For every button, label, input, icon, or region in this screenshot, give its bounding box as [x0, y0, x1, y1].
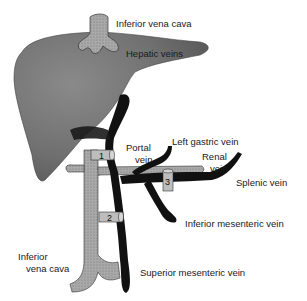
- label-ivc-bottom-line2: vena cava: [26, 263, 69, 274]
- label-renal-vein-line2: vein: [210, 163, 227, 174]
- ivc-cross-branch: [66, 165, 84, 172]
- intrahepatic-portal-branches: [70, 126, 110, 140]
- label-superior-mesenteric-vein: Superior mesenteric vein: [140, 267, 245, 278]
- label-hepatic-veins: Hepatic veins: [126, 48, 183, 59]
- label-renal-vein-line1: Renal: [202, 151, 227, 162]
- shunt-marker-1: 1: [91, 150, 115, 161]
- label-portal-vein-line1: Portal: [126, 142, 151, 153]
- shunt-marker-3: 3: [163, 169, 173, 191]
- svg-text:1: 1: [99, 151, 104, 161]
- label-ivc-bottom-line1: Inferior: [18, 251, 48, 262]
- svg-text:2: 2: [107, 213, 112, 223]
- svg-text:3: 3: [165, 177, 170, 187]
- label-portal-vein-line2: vein: [135, 154, 152, 165]
- shunt-marker-2: 2: [99, 212, 124, 223]
- label-ivc-top: Inferior vena cava: [116, 18, 192, 29]
- label-inferior-mesenteric-vein: Inferior mesenteric vein: [185, 218, 284, 229]
- label-splenic-vein: Splenic vein: [236, 177, 287, 188]
- label-left-gastric-vein: Left gastric vein: [172, 136, 239, 147]
